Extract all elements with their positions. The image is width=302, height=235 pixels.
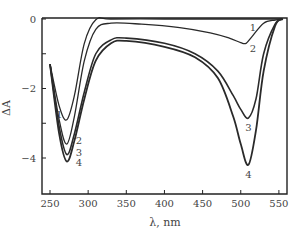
- curve-label: 1: [56, 109, 62, 120]
- y-tick-label: 0: [30, 14, 36, 25]
- curve-label: 4: [76, 157, 82, 168]
- y-tick-label: −4: [21, 153, 36, 164]
- curves: [50, 18, 283, 165]
- x-tick-label: 350: [117, 198, 136, 209]
- curve-label: 2: [76, 135, 82, 146]
- curve-label: 4: [245, 169, 251, 180]
- curve-1: [50, 18, 283, 120]
- x-tick-label: 550: [269, 198, 288, 209]
- curve-label: 2: [250, 43, 256, 54]
- y-tick-label: −2: [21, 83, 36, 94]
- spectrum-chart: 12341234 2503003504004505005500−2−4 λ, n…: [0, 0, 302, 235]
- x-tick-label: 300: [79, 198, 98, 209]
- x-tick-label: 250: [40, 198, 59, 209]
- curve-label: 3: [76, 147, 82, 158]
- x-tick-label: 400: [155, 198, 174, 209]
- x-tick-label: 450: [193, 198, 212, 209]
- x-axis-title: λ, nm: [149, 216, 181, 229]
- y-axis-title: ΔA: [0, 99, 13, 116]
- x-tick-label: 500: [231, 198, 250, 209]
- curve-label: 1: [250, 22, 256, 33]
- curve-label: 3: [245, 122, 251, 133]
